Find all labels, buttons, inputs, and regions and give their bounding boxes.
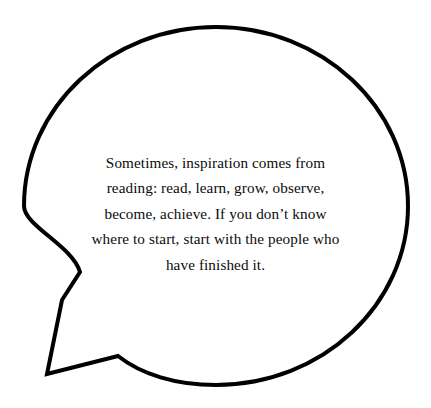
quote-line-3: become, achieve. If you don’t know bbox=[58, 201, 373, 226]
quote-text: Sometimes, inspiration comes from readin… bbox=[58, 150, 373, 277]
quote-line-1: Sometimes, inspiration comes from bbox=[58, 150, 373, 175]
quote-line-2: reading: read, learn, grow, observe, bbox=[58, 175, 373, 200]
quote-line-4: where to start, start with the people wh… bbox=[58, 226, 373, 251]
quote-line-5: have finished it. bbox=[58, 252, 373, 277]
speech-bubble-quote-canvas: Sometimes, inspiration comes from readin… bbox=[0, 0, 431, 408]
